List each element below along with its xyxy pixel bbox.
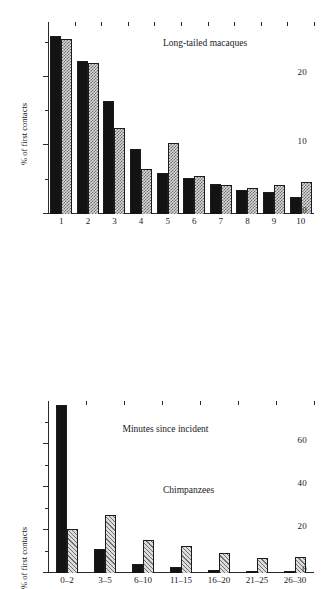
bar-solid [284,571,295,573]
x-tick-mark [48,22,49,26]
x-tick-label: 21–25 [238,575,276,585]
x-tick-label: 2 [75,216,102,226]
bar-group [75,22,102,214]
bar-solid [170,567,181,573]
x-tick-mark [48,401,49,405]
bar-patterned [181,546,192,573]
bar-group [287,22,314,214]
x-tick-label: 11–15 [162,575,200,585]
bar-group [154,22,181,214]
x-tick-mark [234,22,235,26]
y-tick-label: 10 [298,136,307,145]
x-tick-mark [128,22,129,26]
y-tick-label: 0 [302,564,307,573]
y-axis-label-bottom: % of first contacts [20,527,29,589]
y-minor-tick-mark [45,508,48,509]
x-tick-mark [276,401,277,405]
x-tick-mark [314,401,315,405]
y-minor-tick-mark [45,422,48,423]
bar-group [128,22,155,214]
x-tick-mark [208,22,209,26]
y-tick-mark [43,76,48,77]
bar-solid [50,36,61,214]
x-tick-label: 3 [101,216,128,226]
y-minor-tick-mark [45,110,48,111]
x-tick-label: 5 [154,216,181,226]
y-tick-mark [43,144,48,145]
y-tick-label: 40 [298,478,307,487]
plot-area-top: 01020 [48,22,314,214]
bar-solid [77,61,88,214]
y-axis-label-top: % of first contacts [20,103,29,165]
y-minor-tick-mark [45,179,48,180]
y-tick-label: 20 [298,68,307,77]
bar-solid [246,571,257,573]
bar-solid [210,184,221,214]
x-tick-label: 6 [181,216,208,226]
y-tick-mark [43,443,48,444]
x-tick-mark [86,401,87,405]
bar-patterned [67,529,78,574]
bar-patterned [194,176,205,214]
bar-group [181,22,208,214]
bar-patterned [143,540,154,573]
bar-group [234,22,261,214]
panel-long-tailed-macaques: Long-tailed macaques % of first contacts… [0,0,331,232]
x-tick-label: 6–10 [124,575,162,585]
bar-patterned [141,169,152,214]
bar-patterned [219,553,230,573]
bar-patterned [247,188,258,214]
x-tick-label: 10 [287,216,314,226]
x-tick-mark [261,22,262,26]
bar-patterned [88,63,99,214]
bar-patterned [168,143,179,214]
bar-patterned [61,39,72,214]
y-tick-label: 60 [298,435,307,444]
x-tick-label: 0–2 [48,575,86,585]
bar-group [48,22,75,214]
x-tick-mark [314,22,315,26]
bar-groups-top [48,22,314,214]
y-tick-mark [43,486,48,487]
bar-group [208,22,235,214]
x-tick-mark [287,22,288,26]
bar-solid [263,192,274,214]
bar-patterned [274,185,285,214]
y-tick-mark [43,529,48,530]
x-tick-label: 26–30 [276,575,314,585]
x-tick-label: 1 [48,216,75,226]
bar-solid [130,149,141,214]
x-tick-mark [75,22,76,26]
x-tick-label: 7 [208,216,235,226]
y-minor-tick-mark [45,465,48,466]
x-tick-label: 4 [128,216,155,226]
y-tick-mark [43,572,48,573]
bar-patterned [221,185,232,214]
y-minor-tick-mark [45,42,48,43]
x-tick-mark [162,401,163,405]
bar-group [101,22,128,214]
bar-solid [183,178,194,214]
x-tick-labels-bottom: 0–23–56–1011–1516–2021–2526–30 [48,575,314,585]
bar-solid [290,197,301,214]
bar-solid [208,570,219,573]
x-tick-label: 9 [261,216,288,226]
x-tick-label: 16–20 [200,575,238,585]
bar-solid [132,564,143,573]
x-tick-mark [154,22,155,26]
y-minor-tick-mark [45,551,48,552]
x-axis-label-bottom: Minutes since incident [0,424,331,435]
bar-group [261,22,288,214]
x-tick-labels-top: 12345678910 [48,216,314,226]
x-tick-label: 3–5 [86,575,124,585]
bar-solid [157,173,168,214]
bar-solid [103,101,114,214]
x-tick-mark [101,22,102,26]
y-tick-label: 20 [298,521,307,530]
x-tick-label: 8 [234,216,261,226]
bar-solid [94,549,105,573]
bar-solid [236,190,247,214]
y-tick-label: 0 [302,205,307,214]
y-tick-mark [43,213,48,214]
